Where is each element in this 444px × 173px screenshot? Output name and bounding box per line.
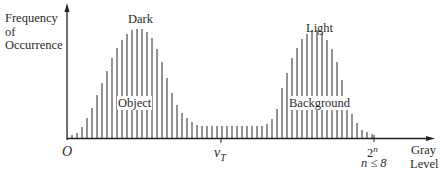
y-axis-label-line1: Frequency [5,11,58,25]
object-label: Object [117,96,152,110]
dark-label: Dark [128,12,153,26]
y-axis-label-line2: of [5,25,15,39]
x-axis-arrow-icon [426,136,435,141]
background-label: Background [288,96,351,110]
light-label: Light [306,21,333,35]
y-axis-label-line3: Occurrence [5,38,63,52]
histogram-bars [72,29,372,138]
threshold-label: vT [214,146,226,165]
x-axis-label-line1: Gray [411,143,436,157]
origin-label: O [62,145,72,159]
y-axis-arrow-icon [65,3,70,12]
x-axis-label-line2: Level [410,157,438,171]
bit-constraint-label: n ≤ 8 [361,156,387,170]
